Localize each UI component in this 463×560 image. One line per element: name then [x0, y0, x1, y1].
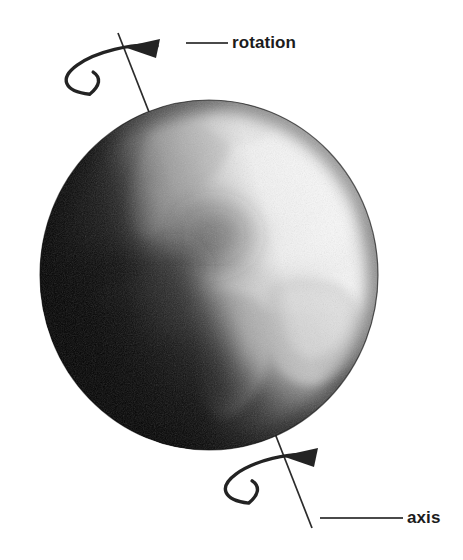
earth-rotation-diagram: rotation axis — [0, 0, 463, 560]
rotation-label-text: rotation — [232, 33, 296, 52]
rotation-arrowhead-top — [124, 39, 160, 58]
label-axis: axis — [320, 508, 441, 527]
label-rotation: rotation — [186, 33, 296, 52]
figure-canvas: rotation axis — [0, 0, 463, 560]
axis-label-text: axis — [407, 508, 441, 527]
earth-globe — [0, 100, 400, 494]
